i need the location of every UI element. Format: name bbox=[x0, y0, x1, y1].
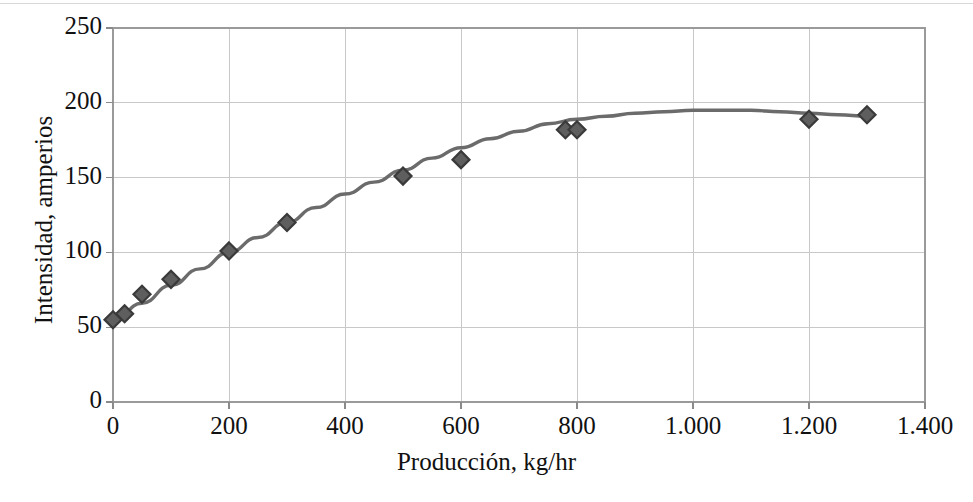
data-point-marker bbox=[221, 242, 238, 259]
x-tick-label: 1.000 bbox=[633, 412, 753, 440]
x-tick-label: 600 bbox=[401, 412, 521, 440]
y-tick-label: 150 bbox=[30, 162, 102, 190]
x-tick-label: 1.400 bbox=[865, 412, 973, 440]
y-tick-label: 200 bbox=[30, 87, 102, 115]
grid-layer bbox=[113, 28, 925, 402]
x-tick-label: 1.200 bbox=[749, 412, 869, 440]
x-tick-label: 0 bbox=[53, 412, 173, 440]
chart-figure: Intensidad, amperios Producción, kg/hr 0… bbox=[0, 0, 973, 502]
x-tick-label: 200 bbox=[169, 412, 289, 440]
trend-line bbox=[113, 110, 867, 321]
y-tick-label: 250 bbox=[30, 12, 102, 40]
x-tick-label: 800 bbox=[517, 412, 637, 440]
y-tick-label: 100 bbox=[30, 236, 102, 264]
y-tick-label: 50 bbox=[30, 311, 102, 339]
plot-frame bbox=[113, 28, 925, 402]
x-tick-label: 400 bbox=[285, 412, 405, 440]
plot-border bbox=[113, 28, 925, 402]
y-tick-label: 0 bbox=[30, 386, 102, 414]
data-point-marker bbox=[453, 151, 470, 168]
data-point-marker bbox=[859, 106, 876, 123]
data-point-marker bbox=[569, 121, 586, 138]
x-axis-title: Producción, kg/hr bbox=[0, 448, 973, 476]
data-point-marker bbox=[279, 214, 296, 231]
fit-curve bbox=[113, 110, 867, 321]
